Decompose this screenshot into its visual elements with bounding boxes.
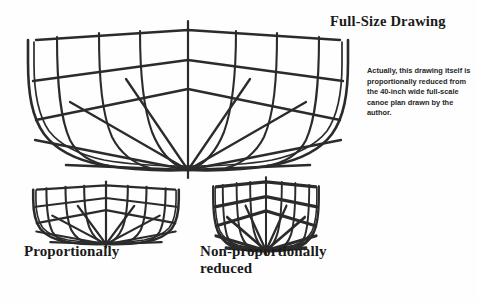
- note-paragraph: Actually, this drawing itself is proport…: [367, 66, 471, 119]
- nonproportional-body-plan-svg: [206, 172, 326, 254]
- caption-proportionally: Proportionally: [24, 243, 194, 260]
- diagonal-2-left: [70, 102, 188, 170]
- title-full-size-drawing: Full-Size Drawing: [330, 14, 475, 30]
- diagonal-2-right: [188, 102, 306, 170]
- diagonal-1-right: [188, 79, 250, 170]
- station-mid-right: [226, 33, 277, 168]
- figure-full-size-drawing: [8, 14, 364, 180]
- proportional-body-plan-svg: [26, 178, 186, 250]
- illustration-page: Full-Size Drawing Actually, this drawing…: [0, 0, 477, 303]
- station-inner-left: [140, 31, 184, 169]
- full-size-body-plan-svg: [8, 14, 364, 180]
- station-mid-left: [99, 33, 150, 168]
- figure-proportionally-reduced: [26, 178, 186, 250]
- station-inner-right: [192, 31, 236, 169]
- diagonal-1-left: [126, 79, 188, 170]
- figure-non-proportionally-reduced: [206, 172, 326, 254]
- caption-non-proportionally-reduced: Non-proportionally reduced: [200, 243, 375, 277]
